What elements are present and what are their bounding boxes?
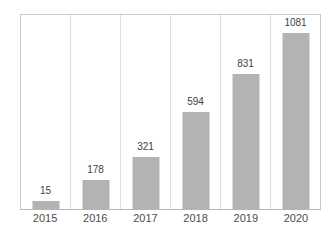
bar-2018 <box>182 112 209 209</box>
plot-area: 151783215948311081 <box>20 14 321 210</box>
value-label-2016: 178 <box>87 164 104 175</box>
bar-2020 <box>282 33 309 209</box>
value-label-2019: 831 <box>237 58 254 69</box>
bar-2017 <box>132 157 159 209</box>
bar-chart: 151783215948311081 201520162017201820192… <box>0 0 331 239</box>
x-tick-label-2018: 2018 <box>171 212 221 225</box>
bar-2015 <box>32 201 59 209</box>
category-cell-2016: 178 <box>71 15 121 209</box>
category-cell-2017: 321 <box>121 15 171 209</box>
x-tick-label-2016: 2016 <box>70 212 120 225</box>
value-label-2017: 321 <box>137 141 154 152</box>
category-cell-2018: 594 <box>171 15 221 209</box>
bar-2016 <box>82 180 109 209</box>
bar-2019 <box>232 74 259 209</box>
category-cell-2015: 15 <box>21 15 71 209</box>
x-tick-label-2019: 2019 <box>221 212 271 225</box>
value-label-2018: 594 <box>187 96 204 107</box>
x-tick-label-2015: 2015 <box>20 212 70 225</box>
x-tick-label-2020: 2020 <box>271 212 321 225</box>
value-label-2020: 1081 <box>284 17 306 28</box>
category-cell-2019: 831 <box>221 15 271 209</box>
x-axis-labels: 201520162017201820192020 <box>20 212 321 225</box>
category-cell-2020: 1081 <box>271 15 320 209</box>
x-tick-label-2017: 2017 <box>120 212 170 225</box>
value-label-2015: 15 <box>40 185 51 196</box>
